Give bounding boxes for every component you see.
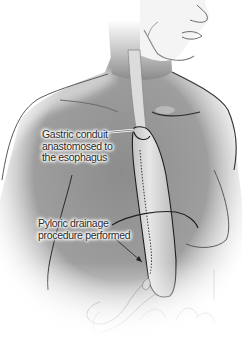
label-line: procedure performed	[38, 230, 130, 242]
label-pyloric-drainage: Pyloric drainage procedure performed	[38, 218, 130, 241]
label-line: Gastric conduit	[42, 129, 113, 141]
label-line: Pyloric drainage	[38, 218, 130, 230]
label-line: the esophagus	[42, 152, 113, 164]
torso-drawing	[0, 0, 242, 337]
anatomical-illustration: Gastric conduit anastomosed to the esoph…	[0, 0, 242, 337]
label-gastric-conduit: Gastric conduit anastomosed to the esoph…	[42, 129, 113, 164]
